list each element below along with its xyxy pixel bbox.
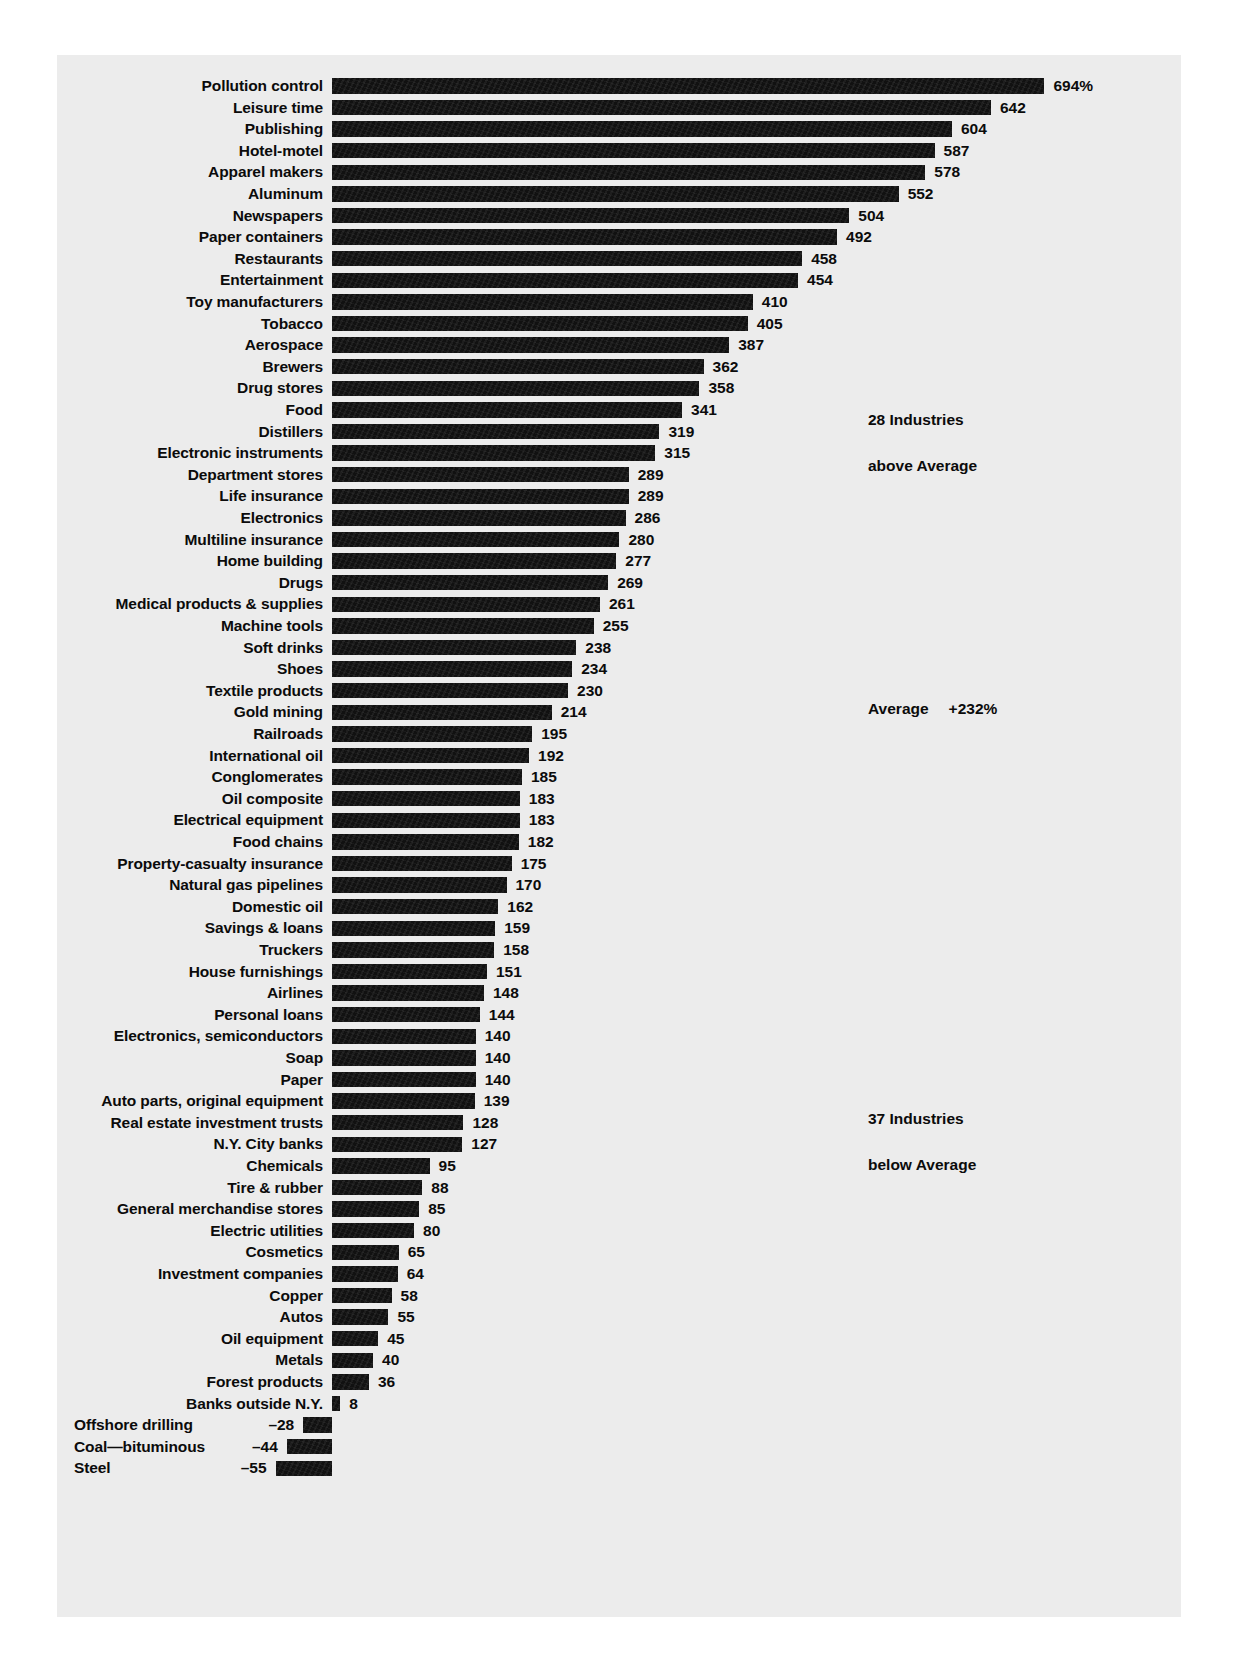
category-label: General merchandise stores	[57, 1198, 323, 1220]
bar	[332, 1115, 463, 1130]
value-label: 127	[471, 1133, 497, 1155]
value-label: 45	[387, 1328, 404, 1350]
bar-row: General merchandise stores85	[57, 1198, 1181, 1220]
category-label: Airlines	[57, 982, 323, 1004]
value-label: 65	[408, 1241, 425, 1263]
value-label: 55	[397, 1306, 414, 1328]
bar	[332, 381, 699, 396]
category-label: Railroads	[57, 723, 323, 745]
value-label: 358	[708, 377, 734, 399]
value-label: 552	[908, 183, 934, 205]
value-label: –28	[57, 1414, 294, 1436]
category-label: Food	[57, 399, 323, 421]
category-label: Banks outside N.Y.	[57, 1393, 323, 1415]
bar-row: Real estate investment trusts128	[57, 1112, 1181, 1134]
bar-row: Home building277	[57, 550, 1181, 572]
value-label: 64	[407, 1263, 424, 1285]
category-label: Paper containers	[57, 226, 323, 248]
bar	[332, 1223, 414, 1238]
value-label: 144	[489, 1004, 515, 1026]
bar-row: Entertainment454	[57, 269, 1181, 291]
bar	[332, 143, 935, 158]
category-label: Machine tools	[57, 615, 323, 637]
bar-row: Savings & loans159	[57, 917, 1181, 939]
bar	[332, 78, 1044, 93]
bar-row: Oil equipment45	[57, 1328, 1181, 1350]
bar-row: N.Y. City banks127	[57, 1133, 1181, 1155]
bar-row: Department stores289	[57, 464, 1181, 486]
category-label: Apparel makers	[57, 161, 323, 183]
value-label: 214	[561, 701, 587, 723]
category-label: Electronics, semiconductors	[57, 1025, 323, 1047]
value-label: 85	[428, 1198, 445, 1220]
value-label: 405	[757, 313, 783, 335]
bar-row: Machine tools255	[57, 615, 1181, 637]
bar-row: Electronics, semiconductors140	[57, 1025, 1181, 1047]
bar-row: Investment companies64	[57, 1263, 1181, 1285]
bar-row: Oil composite183	[57, 788, 1181, 810]
value-label: 454	[807, 269, 833, 291]
value-label: 95	[439, 1155, 456, 1177]
bar	[332, 964, 487, 979]
bar	[332, 165, 925, 180]
bar	[332, 1266, 398, 1281]
bar-row: Coal—bituminous–44	[57, 1436, 1181, 1458]
value-label: 183	[529, 788, 555, 810]
bar	[332, 402, 682, 417]
bar	[332, 489, 629, 504]
category-label: House furnishings	[57, 961, 323, 983]
bar-row: Railroads195	[57, 723, 1181, 745]
annotation-average-value: +232%	[949, 700, 998, 717]
value-label: 40	[382, 1349, 399, 1371]
bar-row: Aerospace387	[57, 334, 1181, 356]
bar-row: Drugs269	[57, 572, 1181, 594]
category-label: Textile products	[57, 680, 323, 702]
bar	[332, 1180, 422, 1195]
category-label: Toy manufacturers	[57, 291, 323, 313]
bar-row: Life insurance289	[57, 485, 1181, 507]
bar	[332, 532, 619, 547]
value-label: 140	[485, 1069, 511, 1091]
category-label: Forest products	[57, 1371, 323, 1393]
annotation-below-average-desc: below Average	[868, 1153, 976, 1176]
category-label: Soap	[57, 1047, 323, 1069]
bar-row: Chemicals95	[57, 1155, 1181, 1177]
value-label: 410	[762, 291, 788, 313]
bar	[332, 985, 484, 1000]
category-label: Oil equipment	[57, 1328, 323, 1350]
bar	[332, 553, 616, 568]
category-label: Property-casualty insurance	[57, 853, 323, 875]
bar	[332, 359, 704, 374]
bar	[332, 813, 520, 828]
value-label: 58	[401, 1285, 418, 1307]
bar-row: Tobacco405	[57, 313, 1181, 335]
bar	[332, 1050, 476, 1065]
category-label: Natural gas pipelines	[57, 874, 323, 896]
bar	[332, 705, 552, 720]
value-label: 587	[944, 140, 970, 162]
bar	[332, 1309, 388, 1324]
bar	[332, 899, 498, 914]
category-label: Publishing	[57, 118, 323, 140]
bar-row: Tire & rubber88	[57, 1177, 1181, 1199]
value-label: 128	[472, 1112, 498, 1134]
category-label: Soft drinks	[57, 637, 323, 659]
category-label: Aerospace	[57, 334, 323, 356]
bar	[332, 661, 572, 676]
bar-row: House furnishings151	[57, 961, 1181, 983]
value-label: 185	[531, 766, 557, 788]
category-label: Cosmetics	[57, 1241, 323, 1263]
bar	[332, 467, 629, 482]
value-label: 159	[504, 917, 530, 939]
category-label: Investment companies	[57, 1263, 323, 1285]
bar	[332, 424, 659, 439]
bar-row: Soap140	[57, 1047, 1181, 1069]
category-label: Tire & rubber	[57, 1177, 323, 1199]
bar-row: Forest products36	[57, 1371, 1181, 1393]
category-label: Electrical equipment	[57, 809, 323, 831]
bar	[332, 640, 576, 655]
category-label: Truckers	[57, 939, 323, 961]
value-label: 286	[635, 507, 661, 529]
bar	[332, 1331, 378, 1346]
bar-row: International oil192	[57, 745, 1181, 767]
